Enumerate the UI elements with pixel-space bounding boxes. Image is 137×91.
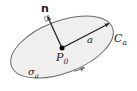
geometry-figure: n a Ca P0 σa (0, 0, 137, 91)
label-surface-subscript: a (35, 72, 39, 80)
label-normal-vector: n (41, 3, 49, 14)
label-boundary-curve-subscript: a (122, 38, 126, 47)
label-radius-vector: a (87, 35, 93, 45)
label-center-point-subscript: 0 (63, 57, 68, 66)
label-boundary-curve: Ca (114, 33, 127, 47)
label-center-point: P0 (56, 52, 68, 66)
label-surface-base: σ (28, 66, 35, 77)
label-surface: σa (28, 67, 39, 80)
center-point-dot (60, 46, 65, 51)
center-point-group (60, 46, 65, 51)
